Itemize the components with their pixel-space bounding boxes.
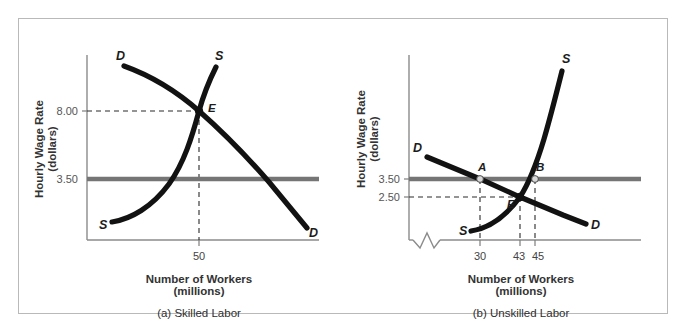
point-b-label: B — [536, 161, 544, 173]
supply-label-top: S — [215, 49, 224, 63]
supply-curve — [112, 67, 216, 222]
point-b-dot — [532, 176, 539, 183]
demand-label-bottom: D — [309, 226, 318, 240]
demand-label-top: D — [413, 141, 422, 155]
y-axis-title-line2: (dollars) — [46, 126, 58, 172]
supply-label-bottom: S — [99, 218, 108, 232]
panel-caption: (b) Unskilled Labor — [473, 307, 570, 319]
demand-label-bottom: D — [591, 218, 600, 232]
panel-skilled-labor: D D S S E 8.00 3.50 50 Hourly Wage Rate … — [19, 19, 344, 315]
xtick-label-30: 30 — [474, 250, 486, 262]
skilled-labor-chart: D D S S E 8.00 3.50 50 Hourly Wage Rate … — [19, 19, 344, 315]
ytick-label-350: 3.50 — [379, 173, 400, 185]
demand-label-top: D — [116, 49, 125, 63]
y-axis-title-line1: Hourly Wage Rate — [33, 100, 45, 198]
point-a-dot — [477, 176, 484, 183]
x-axis-title-line1: Number of Workers — [146, 273, 253, 285]
panel-caption: (a) Skilled Labor — [157, 307, 241, 319]
ytick-label-350: 3.50 — [57, 173, 78, 185]
unskilled-labor-chart: D D S S A B E 3.50 2.50 30 43 45 Hourly … — [341, 19, 666, 315]
equilibrium-point-dot — [195, 107, 203, 115]
xtick-label-43: 43 — [513, 250, 525, 262]
equilibrium-label: E — [208, 102, 216, 114]
ytick-label-250: 2.50 — [379, 191, 400, 203]
x-axis-title-line1: Number of Workers — [468, 273, 575, 285]
equilibrium-point-dot — [516, 193, 524, 201]
supply-label-top: S — [562, 52, 571, 66]
supply-label-bottom: S — [459, 224, 468, 238]
y-axis-title-line1: Hourly Wage Rate — [355, 90, 367, 188]
point-a-label: A — [477, 161, 486, 173]
xtick-label-50: 50 — [193, 250, 205, 262]
y-axis-title-line2: (dollars) — [368, 116, 380, 162]
x-axis-title-line2: (millions) — [173, 285, 224, 297]
axis-break-zigzag — [413, 233, 440, 248]
x-axis-title-line2: (millions) — [495, 285, 546, 297]
ytick-label-8: 8.00 — [57, 105, 78, 117]
figure-frame: D D S S E 8.00 3.50 50 Hourly Wage Rate … — [18, 18, 668, 314]
xtick-label-45: 45 — [532, 250, 544, 262]
equilibrium-label: E — [507, 198, 515, 210]
panel-unskilled-labor: D D S S A B E 3.50 2.50 30 43 45 Hourly … — [341, 19, 666, 315]
